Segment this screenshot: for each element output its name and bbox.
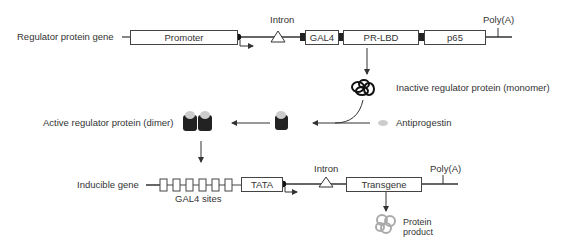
protein-product-icon — [376, 215, 395, 233]
inactive-monomer-icon — [352, 80, 374, 95]
polya-label-top: Poly(A) — [483, 14, 514, 25]
polya-label-bottom: Poly(A) — [430, 163, 461, 174]
promoter-box: Promoter — [130, 30, 238, 45]
active-label: Active regulator protein (dimer) — [43, 117, 173, 128]
pr-lbd-box: PR-LBD — [343, 30, 419, 45]
antiprogestin-label: Antiprogestin — [396, 117, 451, 128]
antiprogestin-icon — [378, 120, 388, 126]
bound-monomer-icon — [275, 111, 288, 130]
gal4-sites-label: GAL4 sites — [175, 193, 221, 204]
inducible-gene-label: Inducible gene — [77, 179, 139, 190]
protein-product-label-2: product — [403, 227, 433, 237]
active-dimer-icon — [183, 111, 212, 131]
intron-label-bottom: Intron — [314, 163, 338, 174]
gal4-sites — [160, 179, 241, 191]
tata-box: TATA — [241, 177, 283, 192]
inactive-label: Inactive regulator protein (monomer) — [396, 82, 550, 93]
regulator-gene-label: Regulator protein gene — [17, 31, 114, 42]
gal4-box: GAL4 — [305, 30, 339, 45]
protein-product-label-1: Protein — [403, 217, 432, 227]
transgene-box: Transgene — [346, 177, 422, 192]
p65-box: p65 — [424, 30, 486, 45]
intron-label-top: Intron — [270, 14, 294, 25]
